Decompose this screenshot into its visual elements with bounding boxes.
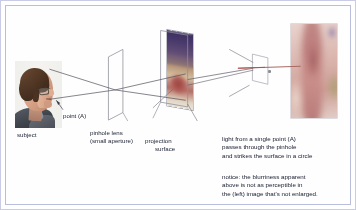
enlarged-dark-spot [308,45,318,77]
label-subject: subject [17,131,36,138]
label-projection-line2: surface [155,145,175,152]
label-projection-line1: projection [145,137,172,144]
aperture-detail-icon [252,54,267,84]
note-notice-paragraph: notice: the blurriness apparent above is… [222,173,348,198]
label-leader-icon [123,102,161,121]
label-pinhole-lens-line2: (small aperture) [90,137,133,144]
projection-surface-image [167,30,193,111]
enlarged-blue-patch [328,26,336,39]
light-ray-icon [49,68,253,100]
subject-mouth [46,98,51,100]
pinhole-projection-figure: subject point (A) pinhole lens (small ap… [0,0,356,210]
pinhole-lens-icon [108,49,122,120]
enlarged-pale-patch [291,79,303,117]
aperture-dot-icon [268,70,271,73]
diagram-canvas: subject point (A) pinhole lens (small ap… [5,5,351,205]
subject-photo [15,61,62,128]
note-light-paragraph: light from a single point (A) passes thr… [222,135,348,160]
projection-blur-overlay [167,30,193,111]
enlarged-green-patch [328,73,337,101]
label-point-a: point (A) [63,112,86,119]
label-pinhole-lens-line1: pinhole lens [90,129,123,136]
enlarged-detail-image [291,24,337,118]
glasses-lens-icon [39,88,50,96]
